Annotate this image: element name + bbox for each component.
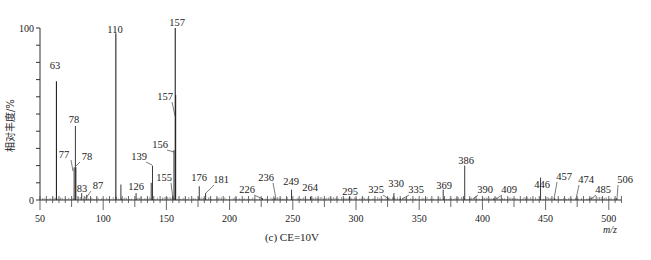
- peak-label: 390: [477, 184, 493, 195]
- peak-sticks: [56, 28, 616, 200]
- peak-label: 139: [131, 151, 147, 162]
- peak-label: 110: [107, 24, 122, 35]
- leader-line: [172, 102, 175, 116]
- peak-label: 181: [213, 174, 229, 185]
- peak-label: 295: [342, 186, 358, 197]
- peak-label: 83: [77, 183, 88, 194]
- peak-label: 157: [157, 91, 173, 102]
- peak-label: 156: [152, 139, 168, 150]
- x-tick-label: 500: [601, 213, 616, 224]
- leader-line: [171, 183, 173, 199]
- peak-label: 176: [191, 172, 207, 183]
- peak-label: 226: [239, 184, 255, 195]
- peak-label: 409: [501, 184, 517, 195]
- peak-label: 63: [50, 60, 61, 71]
- peak-label: 474: [578, 174, 595, 185]
- peak-label: 157: [169, 17, 185, 28]
- peak-label: 77: [59, 149, 70, 160]
- peak-label: 87: [93, 180, 104, 191]
- x-tick-label: 50: [35, 213, 45, 224]
- peak-label: 155: [156, 172, 172, 183]
- leader-line: [206, 185, 214, 193]
- peak-labels: 1571106315778156777813912615583871761812…: [50, 17, 633, 199]
- peak-label: 264: [302, 182, 319, 193]
- x-tick-label: 200: [222, 213, 237, 224]
- mass-spectrum-chart: 010050100150200250300350400450500 157110…: [0, 0, 651, 260]
- x-tick-label: 350: [412, 213, 427, 224]
- leader-line: [167, 150, 174, 152]
- x-tick-label: 400: [475, 213, 490, 224]
- peak-label: 457: [556, 171, 572, 182]
- peak-label: 506: [617, 174, 633, 185]
- x-tick-label: 450: [538, 213, 553, 224]
- peak-label: 330: [388, 178, 404, 189]
- peak-label: 78: [82, 151, 93, 162]
- x-tick-label: 150: [159, 213, 174, 224]
- figure-caption: (c) CE=10V: [265, 231, 319, 244]
- peak-label: 369: [436, 180, 452, 191]
- peak-label: 78: [69, 114, 80, 125]
- peak-label: 236: [258, 172, 274, 183]
- leader-line: [591, 195, 596, 199]
- x-tick-label: 100: [96, 213, 111, 224]
- leader-line: [473, 195, 478, 199]
- leader-line: [617, 185, 618, 199]
- x-axis-label: m/z: [603, 224, 617, 235]
- axes: 010050100150200250300350400450500: [19, 23, 621, 224]
- peak-label: 335: [408, 184, 424, 195]
- x-tick-label: 300: [349, 213, 364, 224]
- leader-line: [254, 195, 263, 199]
- leader-line: [76, 162, 80, 166]
- x-tick-label: 250: [285, 213, 300, 224]
- peak-label: 446: [534, 179, 550, 190]
- peak-label: 126: [128, 181, 144, 192]
- y-axis-label: 相对丰度/%: [4, 99, 16, 152]
- leader-line: [554, 182, 557, 199]
- peak-label: 485: [595, 184, 611, 195]
- leader-line: [146, 162, 152, 165]
- peak-label: 249: [283, 176, 299, 187]
- peak-label: 386: [458, 155, 474, 166]
- y-tick-label: 0: [29, 195, 34, 206]
- peak-label: 325: [368, 184, 384, 195]
- y-tick-label: 100: [19, 23, 34, 34]
- leader-line: [71, 160, 73, 171]
